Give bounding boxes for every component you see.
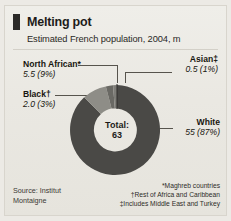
callout-white-name: White [185,117,220,127]
footnotes: *Maghreb countries †Rest of Africa and C… [120,182,220,209]
callout-white-value: 55 (87%) [185,127,220,137]
chart-figure: Melting pot Estimated French population,… [0,0,231,221]
callout-north-african-value: 5.5 (9%) [23,69,81,79]
callout-asian-value: 0.5 (1%) [186,64,218,74]
title-marker-icon [13,14,20,30]
donut-chart: Total: 63 [67,80,167,180]
chart-header: Melting pot [13,14,91,30]
callout-north-african-name: North African* [23,59,81,69]
callout-asian: Asian‡ 0.5 (1%) [186,54,218,74]
chart-plot-area: Total: 63 North African* 5.5 (9%) Black†… [5,50,226,180]
footnote-3: ‡Includes Middle East and Turkey [120,200,220,209]
page-title: Melting pot [27,16,91,29]
source-note: Source: Institut Montaigne [13,186,61,205]
footnote-2: †Rest of Africa and Caribbean [120,191,220,200]
callout-black-value: 2.0 (3%) [23,99,55,109]
callout-north-african: North African* 5.5 (9%) [23,59,81,79]
chart-subtitle: Estimated French population, 2004, m [27,34,181,44]
callout-black-name: Black† [23,89,55,99]
leader-line-north-african-horizontal [78,65,117,66]
callout-white: White 55 (87%) [185,117,220,137]
leader-line-asian-horizontal [125,72,172,73]
callout-black: Black† 2.0 (3%) [23,89,55,109]
callout-asian-name: Asian‡ [186,54,218,64]
footnote-1: *Maghreb countries [120,182,220,191]
donut-chart-svg [67,80,167,180]
